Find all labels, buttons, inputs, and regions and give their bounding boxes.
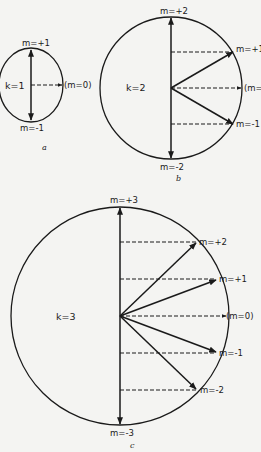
vector-model-diagram: m=+1 m=-1 (m=0) k=1 a m=+2 m=+1 (m=0) m=… (0, 0, 261, 452)
label-b-zero: (m=0) (244, 83, 261, 93)
label-a-bottom: m=-1 (20, 123, 44, 133)
label-c-n1: m=-1 (219, 348, 243, 358)
panel-a: m=+1 m=-1 (m=0) k=1 a (0, 38, 91, 152)
label-c-zero: (m=0) (226, 311, 253, 321)
label-c-n2: m=-2 (200, 385, 224, 395)
label-c-p1: m=+1 (219, 274, 247, 284)
k-label-a: k=1 (5, 80, 25, 91)
vector-c-n1 (120, 316, 216, 352)
vector-b-p1 (171, 52, 233, 88)
label-c-bottom: m=-3 (110, 428, 134, 438)
caption-b: b (176, 174, 181, 183)
k-label-c: k=3 (56, 311, 76, 322)
vector-c-p1 (120, 280, 216, 316)
vector-b-n1 (171, 88, 233, 124)
panel-c: m=+3 m=+2 m=+1 (m=0) m=-1 m=-2 m=-3 k=3 … (11, 195, 253, 450)
label-b-n1: m=-1 (236, 119, 260, 129)
panel-b: m=+2 m=+1 (m=0) m=-1 m=-2 k=2 b (100, 6, 261, 183)
label-a-top: m=+1 (22, 38, 50, 48)
caption-a: a (42, 143, 47, 152)
label-b-top: m=+2 (160, 6, 188, 16)
caption-c: c (130, 441, 135, 450)
label-b-bottom: m=-2 (160, 162, 184, 172)
label-b-p1: m=+1 (236, 44, 261, 54)
label-c-p2: m=+2 (199, 237, 227, 247)
label-c-top: m=+3 (110, 195, 138, 205)
label-a-zero: (m=0) (64, 80, 91, 90)
k-label-b: k=2 (126, 82, 146, 93)
